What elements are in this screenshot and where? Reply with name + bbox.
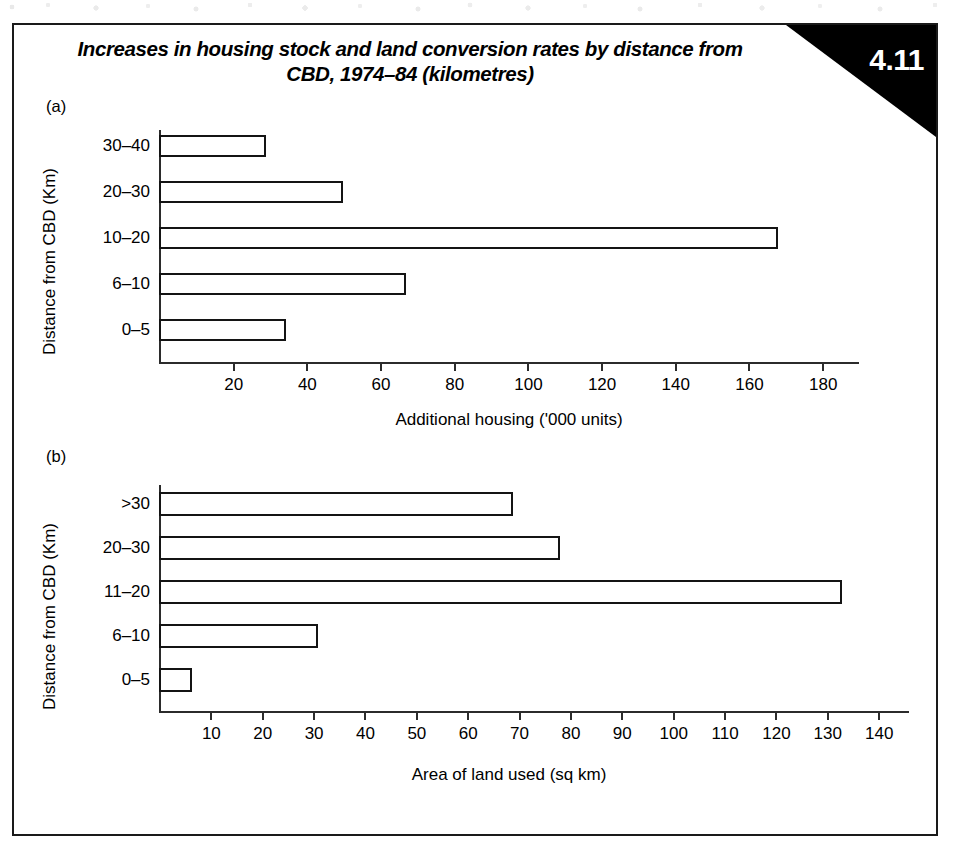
- panel-a-y-axis-title: Distance from CBD (Km): [40, 168, 60, 355]
- x-axis-tick-label: 100: [660, 724, 688, 744]
- x-axis-tick-label: 80: [445, 375, 464, 395]
- x-axis-tick: [380, 362, 382, 371]
- x-axis-tick: [570, 711, 572, 720]
- bar: [159, 135, 266, 157]
- x-axis-tick-label: 110: [712, 724, 739, 744]
- category-label: 20–30: [103, 538, 150, 558]
- x-axis-tick: [210, 711, 212, 720]
- bar: [159, 227, 778, 249]
- panel-b-tag: (b): [46, 447, 66, 466]
- scan-noise-band: [0, 0, 963, 16]
- x-axis-tick-label: 30: [305, 724, 324, 744]
- x-axis-tick: [621, 711, 623, 720]
- x-axis-tick-label: 140: [662, 375, 690, 395]
- figure-title: Increases in housing stock and land conv…: [60, 36, 760, 86]
- category-label: 20–30: [103, 182, 150, 202]
- x-axis-tick: [306, 362, 308, 371]
- panel-b-y-axis-title: Distance from CBD (Km): [40, 523, 60, 710]
- x-axis-tick: [454, 362, 456, 371]
- x-axis-tick-label: 160: [735, 375, 763, 395]
- x-axis-tick-label: 90: [613, 724, 632, 744]
- x-axis-tick-label: 40: [356, 724, 375, 744]
- x-axis-tick-label: 40: [298, 375, 317, 395]
- category-label: 30–40: [103, 136, 150, 156]
- x-axis-tick-label: 20: [224, 375, 243, 395]
- x-axis-tick-label: 50: [407, 724, 426, 744]
- category-label: 0–5: [122, 670, 150, 690]
- x-axis-tick: [748, 362, 750, 371]
- category-label: >30: [121, 494, 150, 514]
- x-axis-tick-label: 180: [809, 375, 837, 395]
- x-axis-tick: [467, 711, 469, 720]
- panel-b-x-axis-title: Area of land used (sq km): [159, 765, 859, 785]
- badge-triangle: [786, 25, 936, 137]
- panel-a-tag: (a): [46, 97, 66, 116]
- figure-number-badge: 4.11: [786, 25, 936, 137]
- x-axis-tick-label: 10: [202, 724, 221, 744]
- panel-a-plot-area: 0–56–1010–2020–3030–40204060801001201401…: [159, 130, 859, 364]
- bar: [159, 580, 842, 604]
- x-axis-tick-label: 140: [865, 724, 893, 744]
- x-axis-tick: [675, 362, 677, 371]
- bar: [159, 319, 286, 341]
- x-axis-tick-label: 130: [814, 724, 842, 744]
- x-axis-tick-label: 70: [510, 724, 529, 744]
- x-axis-tick-label: 120: [762, 724, 790, 744]
- x-axis-tick: [673, 711, 675, 720]
- panel-b-plot-area: 0–56–1011–2020–30>3010203040506070809010…: [159, 485, 909, 713]
- bar: [159, 181, 343, 203]
- x-axis-tick-label: 100: [514, 375, 542, 395]
- bar: [159, 492, 513, 516]
- panel-a-x-axis-title: Additional housing ('000 units): [159, 410, 859, 430]
- category-label: 6–10: [112, 626, 150, 646]
- x-axis-tick: [262, 711, 264, 720]
- bar: [159, 668, 192, 692]
- x-axis-tick: [416, 711, 418, 720]
- panel-a-x-axis-line: [159, 362, 859, 364]
- category-label: 11–20: [104, 582, 150, 602]
- x-axis-tick-label: 60: [372, 375, 391, 395]
- x-axis-tick-label: 60: [459, 724, 478, 744]
- x-axis-tick: [313, 711, 315, 720]
- x-axis-tick: [233, 362, 235, 371]
- x-axis-tick: [519, 711, 521, 720]
- x-axis-tick: [827, 711, 829, 720]
- figure-number: 4.11: [869, 43, 924, 77]
- bar: [159, 536, 560, 560]
- bar: [159, 624, 318, 648]
- x-axis-tick: [364, 711, 366, 720]
- x-axis-tick-label: 80: [561, 724, 580, 744]
- x-axis-tick-label: 120: [588, 375, 616, 395]
- x-axis-tick: [878, 711, 880, 720]
- category-label: 0–5: [122, 320, 150, 340]
- bar: [159, 273, 406, 295]
- x-axis-tick: [822, 362, 824, 371]
- figure-frame: Increases in housing stock and land conv…: [12, 23, 938, 836]
- x-axis-tick: [775, 711, 777, 720]
- x-axis-tick: [601, 362, 603, 371]
- x-axis-tick: [527, 362, 529, 371]
- category-label: 10–20: [103, 228, 150, 248]
- x-axis-tick-label: 20: [253, 724, 272, 744]
- panel-b-x-axis-line: [159, 711, 909, 713]
- category-label: 6–10: [112, 274, 150, 294]
- x-axis-tick: [724, 711, 726, 720]
